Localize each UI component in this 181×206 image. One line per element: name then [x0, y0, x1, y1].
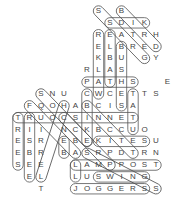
grid-letter: T: [117, 136, 127, 146]
grid-letter: C: [105, 125, 115, 135]
grid-letter: B: [117, 42, 127, 52]
grid-letter: Y: [151, 53, 161, 63]
grid-letter: R: [94, 30, 104, 40]
grid-letter: A: [71, 101, 81, 111]
grid-letter: R: [128, 184, 138, 194]
grid-letter: B: [117, 6, 127, 16]
grid-letter: R: [140, 148, 150, 158]
grid-letter: S: [36, 89, 46, 99]
grid-letter: R: [140, 30, 150, 40]
grid-letter: K: [94, 136, 104, 146]
grid-letter: T: [128, 113, 138, 123]
grid-letter: E: [82, 136, 92, 146]
grid-letter: I: [105, 101, 115, 111]
grid-letter: F: [25, 101, 35, 111]
grid-letter: O: [128, 160, 138, 170]
grid-letter: E: [94, 42, 104, 52]
grid-letter: O: [48, 113, 58, 123]
grid-letter: T: [36, 184, 46, 194]
word-search-grid: SBSDIKREATRHELBREDKBUGYRLASPATHSESNUCWCE…: [0, 0, 181, 206]
grid-letter: H: [151, 30, 161, 40]
grid-letter: D: [117, 18, 127, 28]
grid-letter: E: [36, 160, 46, 170]
grid-letter: O: [48, 101, 58, 111]
grid-letter: S: [94, 172, 104, 182]
grid-letter: E: [105, 30, 115, 40]
grid-letter: T: [105, 77, 115, 87]
grid-letter: P: [117, 160, 127, 170]
grid-letter: I: [128, 18, 138, 28]
grid-letter: O: [82, 184, 92, 194]
grid-letter: E: [140, 42, 150, 52]
grid-letter: R: [36, 136, 46, 146]
grid-letter: T: [151, 160, 161, 170]
grid-letter: W: [105, 172, 115, 182]
grid-letter: Q: [36, 101, 46, 111]
grid-letter: L: [71, 160, 81, 170]
grid-letter: N: [59, 125, 69, 135]
grid-letter: N: [48, 89, 58, 99]
grid-letter: I: [105, 136, 115, 146]
grid-letter: I: [36, 125, 46, 135]
grid-letter: S: [117, 65, 127, 75]
grid-letter: R: [82, 65, 92, 75]
grid-letter: K: [140, 18, 150, 28]
grid-letter: A: [71, 148, 81, 158]
grid-letter: N: [105, 113, 115, 123]
grid-letter: E: [117, 184, 127, 194]
grid-letter: S: [140, 136, 150, 146]
grid-letter: R: [13, 125, 23, 135]
grid-letter: A: [94, 77, 104, 87]
grid-letter: B: [25, 148, 35, 158]
grid-letter: S: [25, 136, 35, 146]
grid-letter: A: [82, 160, 92, 170]
grid-letter: S: [140, 184, 150, 194]
grid-letter: S: [71, 113, 81, 123]
grid-letter: K: [94, 53, 104, 63]
grid-letter: B: [59, 148, 69, 158]
grid-letter: U: [59, 89, 69, 99]
grid-letter: B: [105, 53, 115, 63]
grid-letter: E: [128, 136, 138, 146]
grid-letter: I: [82, 113, 92, 123]
grid-letter: O: [140, 125, 150, 135]
grid-letter: G: [105, 184, 115, 194]
grid-letter: N: [151, 148, 161, 158]
grid-letter: K: [82, 125, 92, 135]
grid-letter: T: [128, 30, 138, 40]
grid-letter: S: [140, 160, 150, 170]
grid-letter: E: [163, 77, 173, 87]
grid-letter: U: [117, 53, 127, 63]
grid-letter: L: [36, 172, 46, 182]
grid-letter: C: [71, 125, 81, 135]
grid-letter: S: [94, 6, 104, 16]
grid-letter: R: [128, 42, 138, 52]
grid-letter: N: [94, 113, 104, 123]
grid-letter: J: [71, 184, 81, 194]
grid-letter: C: [94, 101, 104, 111]
grid-letter: S: [128, 77, 138, 87]
grid-letter: U: [151, 136, 161, 146]
grid-letter: P: [82, 77, 92, 87]
grid-letter: T: [128, 89, 138, 99]
grid-letter: S: [117, 101, 127, 111]
grid-letter: I: [117, 172, 127, 182]
grid-letter: U: [82, 172, 92, 182]
grid-letter: E: [25, 160, 35, 170]
grid-letter: S: [151, 184, 161, 194]
grid-letter: L: [105, 42, 115, 52]
grid-letter: H: [59, 101, 69, 111]
grid-letter: B: [94, 125, 104, 135]
grid-letter: E: [59, 136, 69, 146]
grid-letter: P: [105, 148, 115, 158]
grid-letter: H: [117, 77, 127, 87]
grid-letter: N: [128, 172, 138, 182]
grid-letter: B: [82, 101, 92, 111]
grid-letter: E: [13, 136, 23, 146]
grid-letter: A: [105, 65, 115, 75]
grid-letter: T: [140, 89, 150, 99]
grid-letter: E: [117, 89, 127, 99]
grid-letter: G: [94, 184, 104, 194]
grid-letter: A: [128, 101, 138, 111]
grid-letter: R: [94, 148, 104, 158]
